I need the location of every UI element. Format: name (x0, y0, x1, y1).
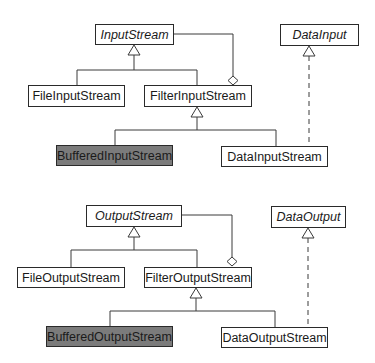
inheritance-arrow-icon (128, 45, 140, 55)
class-buffered-output-stream[interactable]: BufferedOutputStream (47, 327, 173, 347)
class-label: BufferedOutputStream (47, 330, 172, 344)
class-filter-output-stream[interactable]: FilterOutputStream (145, 268, 252, 288)
inheritance-arrow-icon (191, 107, 203, 117)
inheritance-branch (110, 311, 275, 327)
inheritance-branch (71, 250, 197, 267)
class-label: OutputStream (95, 209, 173, 223)
aggregation-line (181, 215, 232, 257)
inheritance-arrow-icon (128, 227, 140, 237)
class-label: FilterInputStream (150, 89, 246, 103)
realization-arrow-icon (303, 46, 315, 56)
class-output-stream[interactable]: OutputStream (87, 206, 182, 227)
class-label: BufferedInputStream (57, 149, 172, 163)
class-file-input-stream[interactable]: FileInputStream (29, 86, 125, 107)
interface-data-input[interactable]: DataInput (281, 25, 359, 46)
aggregation-diamond-icon (227, 257, 237, 266)
class-input-stream[interactable]: InputStream (96, 25, 174, 45)
class-data-output-stream[interactable]: DataOutputStream (222, 328, 328, 348)
class-data-input-stream[interactable]: DataInputStream (222, 147, 328, 167)
class-file-output-stream[interactable]: FileOutputStream (18, 268, 125, 288)
class-label: DataInputStream (227, 150, 322, 164)
inheritance-branch (115, 130, 276, 146)
input-stream-diagram: InputStream DataInput FileInputStream Fi… (29, 25, 359, 167)
class-buffered-input-stream[interactable]: BufferedInputStream (57, 146, 173, 166)
class-label: DataOutputStream (222, 331, 326, 345)
class-label: DataInput (292, 28, 347, 42)
output-stream-diagram: OutputStream DataOutput FileOutputStream… (18, 206, 346, 348)
class-label: FileOutputStream (22, 271, 120, 285)
class-diagram: InputStream DataInput FileInputStream Fi… (0, 0, 375, 363)
inheritance-arrow-icon (190, 288, 202, 298)
class-filter-input-stream[interactable]: FilterInputStream (145, 86, 252, 107)
realization-arrow-icon (302, 228, 314, 238)
class-label: InputStream (100, 28, 168, 42)
class-label: DataOutput (277, 210, 341, 224)
aggregation-diamond-icon (228, 76, 238, 85)
inheritance-branch (77, 70, 197, 85)
class-label: FilterOutputStream (145, 271, 251, 285)
interface-data-output[interactable]: DataOutput (272, 207, 346, 228)
class-label: FileInputStream (32, 89, 120, 103)
